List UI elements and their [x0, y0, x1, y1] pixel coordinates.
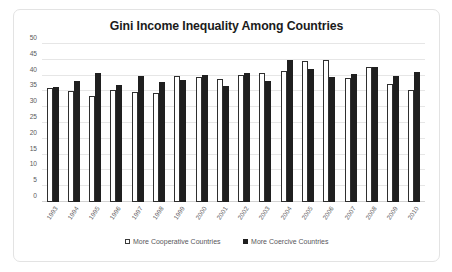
x-axis-tick: 2007: [340, 203, 361, 237]
bar-group: [404, 44, 425, 202]
y-axis-tick-label: 45: [30, 49, 37, 56]
bar-groups: [42, 44, 425, 202]
x-axis-tick: 2004: [276, 203, 297, 237]
x-axis-tick: 2005: [297, 203, 318, 237]
bar-group: [127, 44, 148, 202]
x-axis-tick-label: 1999: [172, 205, 186, 221]
bar-group: [191, 44, 212, 202]
x-axis-tick: 1996: [106, 203, 127, 237]
legend-item[interactable]: More Coercive Countries: [243, 238, 329, 245]
x-axis-tick-label: 1993: [45, 205, 59, 221]
bar-coer: [393, 76, 399, 202]
bar-group: [170, 44, 191, 202]
bar-coer: [265, 81, 271, 202]
y-axis-tick-label: 5: [33, 176, 37, 183]
bar-group: [148, 44, 169, 202]
bar-coer: [223, 86, 229, 202]
x-axis-tick-label: 2001: [215, 205, 229, 221]
x-axis-tick-label: 2007: [343, 205, 357, 221]
x-axis: 1993199419951996199719981999200020012002…: [42, 203, 425, 237]
bar-coer: [414, 72, 420, 202]
x-axis-tick-label: 2009: [385, 205, 399, 221]
x-axis-tick-label: 1997: [130, 205, 144, 221]
y-axis-tick-label: 10: [30, 160, 37, 167]
bar-group: [85, 44, 106, 202]
y-axis-tick-label: 35: [30, 81, 37, 88]
bar-group: [340, 44, 361, 202]
x-axis-tick: 2006: [319, 203, 340, 237]
bar-coer: [372, 67, 378, 202]
x-axis-tick-label: 1995: [87, 205, 101, 221]
bar-coer: [308, 69, 314, 202]
bar-coer: [74, 81, 80, 202]
bar-group: [212, 44, 233, 202]
x-axis-tick: 2002: [234, 203, 255, 237]
bar-group: [361, 44, 382, 202]
y-axis-tick-label: 25: [30, 113, 37, 120]
legend-label: More Coercive Countries: [251, 238, 328, 245]
chart-card: Gini Income Inequality Among Countries 0…: [13, 9, 440, 262]
bar-coer: [351, 74, 357, 202]
x-axis-tick-label: 2005: [300, 205, 314, 221]
x-axis-tick: 2000: [191, 203, 212, 237]
x-axis-tick: 1997: [127, 203, 148, 237]
x-axis-tick-label: 1994: [66, 205, 80, 221]
x-axis-tick-label: 2000: [194, 205, 208, 221]
bar-coer: [329, 77, 335, 202]
bar-group: [106, 44, 127, 202]
y-axis-tick-label: 40: [30, 65, 37, 72]
x-axis-tick-label: 2004: [279, 205, 293, 221]
bar-group: [63, 44, 84, 202]
bar-coer: [138, 76, 144, 202]
x-axis-tick: 1999: [170, 203, 191, 237]
x-axis-tick: 1994: [63, 203, 84, 237]
bar-coer: [95, 73, 101, 202]
bar-group: [234, 44, 255, 202]
legend-swatch-coer: [243, 239, 249, 245]
y-axis-tick-label: 30: [30, 97, 37, 104]
x-axis-tick: 2010: [404, 203, 425, 237]
bar-group: [297, 44, 318, 202]
x-axis-tick-label: 2003: [258, 205, 272, 221]
bar-group: [276, 44, 297, 202]
chart-title: Gini Income Inequality Among Countries: [14, 19, 439, 33]
bar-coer: [159, 82, 165, 202]
y-axis-tick-label: 0: [33, 192, 37, 199]
x-axis-tick-label: 2002: [236, 205, 250, 221]
x-axis-tick-label: 1998: [151, 205, 165, 221]
x-axis-tick: 1995: [85, 203, 106, 237]
x-axis-tick-label: 2006: [321, 205, 335, 221]
bar-group: [42, 44, 63, 202]
legend-item[interactable]: More Cooperative Countries: [125, 238, 221, 245]
x-axis-tick: 2009: [383, 203, 404, 237]
x-axis-tick: 1998: [148, 203, 169, 237]
y-axis-tick-label: 15: [30, 144, 37, 151]
legend-label: More Cooperative Countries: [133, 238, 221, 245]
bar-coer: [53, 87, 59, 202]
bar-coer: [244, 73, 250, 202]
y-axis-tick-label: 50: [30, 34, 37, 41]
bar-coer: [180, 80, 186, 202]
bar-coer: [287, 60, 293, 202]
chart-legend: More Cooperative CountriesMore Coercive …: [14, 238, 439, 245]
x-axis-tick-label: 1996: [109, 205, 123, 221]
x-axis-tick: 2008: [361, 203, 382, 237]
bar-group: [255, 44, 276, 202]
x-axis-tick: 1993: [42, 203, 63, 237]
x-axis-tick-label: 2008: [364, 205, 378, 221]
x-axis-tick: 2001: [212, 203, 233, 237]
bar-coer: [202, 75, 208, 202]
legend-swatch-coop: [125, 239, 131, 245]
bar-coer: [116, 85, 122, 202]
y-axis-tick-label: 20: [30, 128, 37, 135]
bar-group: [383, 44, 404, 202]
x-axis-tick-label: 2010: [406, 205, 420, 221]
plot-area: 05101520253035404550: [42, 44, 425, 202]
x-axis-tick: 2003: [255, 203, 276, 237]
bar-group: [319, 44, 340, 202]
